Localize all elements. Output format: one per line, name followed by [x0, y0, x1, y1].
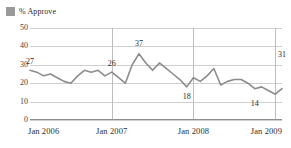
y-axis-tick-label: 20: [4, 79, 28, 87]
y-axis-tick-label: 40: [4, 42, 28, 50]
legend-label: % Approve: [19, 7, 56, 16]
plot-area: 272637181431: [30, 28, 282, 120]
data-point-label: 14: [251, 100, 259, 108]
y-axis-tick-label: 10: [4, 98, 28, 106]
y-axis-tick-label: 50: [4, 24, 28, 32]
legend-swatch-icon: [6, 7, 15, 16]
y-axis-tick-labels: 01020304050: [0, 28, 28, 120]
gridline-horizontal: [30, 120, 282, 121]
x-axis-tick-label: Jan 2007: [96, 126, 127, 136]
data-point-label: 31: [278, 51, 286, 59]
data-point-label: 27: [26, 58, 34, 66]
approval-rating-chart: % Approve 01020304050 272637181431 Jan 2…: [0, 0, 291, 148]
x-axis-tick-label: Jan 2009: [251, 126, 282, 136]
data-point-label: 37: [135, 40, 143, 48]
x-axis-tick-labels: Jan 2006Jan 2007Jan 2008Jan 2009: [0, 126, 291, 142]
x-axis-tick-label: Jan 2008: [178, 126, 209, 136]
data-point-label: 26: [108, 60, 116, 68]
y-axis-tick-label: 30: [4, 61, 28, 69]
series-line-approve: [30, 28, 282, 120]
data-point-label: 18: [183, 93, 191, 101]
x-axis-tick-label: Jan 2006: [28, 126, 59, 136]
chart-legend: % Approve: [6, 5, 56, 17]
y-axis-tick-label: 0: [4, 116, 28, 124]
